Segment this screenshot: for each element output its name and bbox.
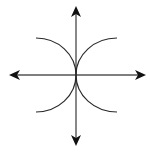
arc-upper-left	[36, 38, 76, 75]
diagram-canvas	[0, 0, 150, 156]
arc-lower-left	[36, 75, 76, 112]
arc-lower-right	[76, 75, 117, 112]
axes-diagram	[0, 0, 150, 156]
arc-upper-right	[76, 38, 117, 75]
